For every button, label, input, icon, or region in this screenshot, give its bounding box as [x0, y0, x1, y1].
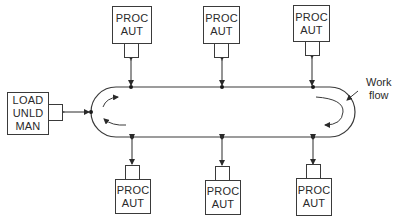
station-connector-bottom-2	[215, 166, 230, 181]
station-label-line: PROC	[117, 184, 150, 197]
station-label-line: PROC	[298, 184, 331, 197]
station-label-line: AUT	[300, 24, 323, 37]
proc-aut-station-top-3: PROC AUT	[293, 5, 330, 42]
junction-dot-top-2	[220, 85, 224, 89]
flow-arrow-left-upper	[103, 97, 118, 107]
station-label-line: AUT	[121, 25, 144, 38]
junction-dot-left	[89, 110, 93, 114]
station-connector-bottom-1	[125, 165, 140, 180]
conveyor-loop	[91, 87, 355, 137]
junction-dot-bottom-2	[220, 135, 224, 139]
station-label-line: MAN	[15, 120, 40, 133]
station-label-line: AUT	[212, 198, 235, 211]
station-label-line: LOAD	[13, 94, 44, 107]
load-station-connector	[48, 104, 63, 121]
station-connector-top-2	[214, 43, 229, 58]
junction-dot-top-1	[129, 85, 133, 89]
station-label-line: AUT	[303, 197, 326, 210]
junction-dot-bottom-3	[311, 135, 315, 139]
station-connector-bottom-3	[306, 164, 321, 179]
station-label-line: PROC	[207, 185, 240, 198]
station-label-line: AUT	[210, 25, 233, 38]
station-label-line: AUT	[122, 197, 145, 210]
work-flow-annotation: Work flow	[366, 76, 400, 102]
flow-arrow-right	[316, 97, 343, 125]
station-label-line: UNLD	[13, 107, 44, 120]
proc-aut-station-bottom-1: PROC AUT	[115, 179, 151, 214]
station-label-line: PROC	[205, 12, 238, 25]
station-connector-top-1	[124, 43, 139, 58]
station-label-line: PROC	[116, 12, 149, 25]
annotation-line: Work	[366, 76, 400, 89]
junction-dot-top-3	[311, 85, 315, 89]
proc-aut-station-top-1: PROC AUT	[112, 6, 152, 44]
flow-arrow-left-lower	[104, 119, 126, 125]
station-label-line: PROC	[295, 11, 328, 24]
work-flow-diagram: LOAD UNLD MAN PROC AUT PROC AUT PROC AUT…	[0, 0, 400, 221]
junction-dot-bottom-1	[130, 135, 134, 139]
load-unload-manual-station: LOAD UNLD MAN	[7, 92, 49, 135]
proc-aut-station-top-2: PROC AUT	[203, 6, 240, 44]
annotation-line: flow	[366, 89, 400, 102]
proc-aut-station-bottom-3: PROC AUT	[296, 178, 332, 216]
proc-aut-station-bottom-2: PROC AUT	[205, 180, 241, 215]
station-connector-top-3	[305, 41, 320, 56]
